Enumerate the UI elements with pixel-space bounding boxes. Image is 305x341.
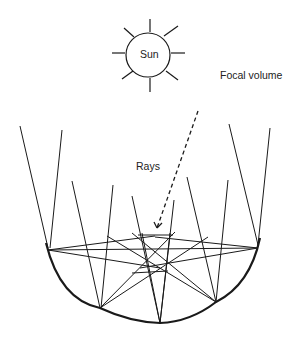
focal-volume-label: Focal volume bbox=[220, 69, 282, 81]
concentrator-diagram: Sun Focal volume Rays bbox=[0, 0, 305, 341]
reflected-rays bbox=[48, 232, 258, 323]
focal-pointer bbox=[154, 111, 198, 228]
sun-label: Sun bbox=[140, 48, 159, 60]
incoming-rays bbox=[20, 124, 270, 323]
rays-label: Rays bbox=[136, 160, 160, 172]
